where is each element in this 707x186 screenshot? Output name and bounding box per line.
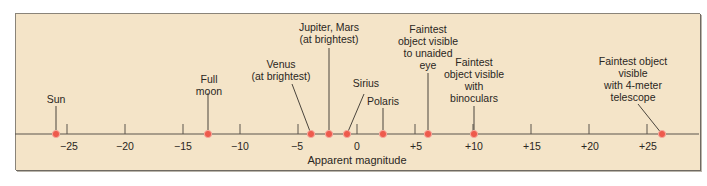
- tick-label: +10: [465, 140, 483, 152]
- label-full-moon: Full moon: [196, 73, 222, 97]
- tick-label: −25: [60, 140, 78, 152]
- label-line: Polaris: [367, 95, 399, 107]
- point-jupiter-mars: [325, 130, 332, 137]
- label-line: Venus: [252, 58, 311, 70]
- label-line: Jupiter, Mars: [299, 21, 359, 33]
- label-line: Sirius: [353, 77, 379, 89]
- label-line: (at brightest): [252, 70, 311, 82]
- point-polaris: [379, 130, 386, 137]
- tick-label: +15: [523, 140, 541, 152]
- tick-label: +25: [639, 140, 657, 152]
- label-telescope: Faintest object visible with 4-meter tel…: [599, 55, 667, 103]
- label-line: binoculars: [444, 92, 504, 104]
- label-line: Faintest: [444, 56, 504, 68]
- point-sirius: [343, 130, 350, 137]
- label-line: Full: [196, 73, 222, 85]
- point-sun: [52, 130, 59, 137]
- axis-title: Apparent magnitude: [307, 154, 406, 166]
- leader-lines: [56, 48, 662, 134]
- tick-label: 0: [354, 140, 360, 152]
- point-binoculars: [470, 130, 477, 137]
- tick-label: −10: [231, 140, 249, 152]
- point-telescope: [658, 130, 665, 137]
- label-line: object visible: [444, 68, 504, 80]
- tick-label: +5: [410, 140, 422, 152]
- axis-ticks: [67, 124, 647, 134]
- point-unaided-eye: [424, 130, 431, 137]
- label-binoculars: Faintest object visible with binoculars: [444, 56, 504, 104]
- label-sirius: Sirius: [353, 77, 379, 89]
- tick-label: −20: [116, 140, 134, 152]
- point-venus: [307, 130, 314, 137]
- tick-label: −5: [291, 140, 303, 152]
- label-line: Faintest object: [599, 55, 667, 67]
- tick-label: −15: [174, 140, 192, 152]
- label-line: (at brightest): [299, 33, 359, 45]
- label-line: with: [444, 80, 504, 92]
- tick-label: +20: [581, 140, 599, 152]
- label-line: Sun: [47, 93, 66, 105]
- label-line: object visible: [398, 35, 458, 47]
- label-line: moon: [196, 85, 222, 97]
- label-venus: Venus (at brightest): [252, 58, 311, 82]
- label-polaris: Polaris: [367, 95, 399, 107]
- label-line: with 4-meter: [599, 79, 667, 91]
- label-line: Faintest: [398, 23, 458, 35]
- label-jupiter-mars: Jupiter, Mars (at brightest): [299, 21, 359, 45]
- label-sun: Sun: [47, 93, 66, 105]
- label-line: visible: [599, 67, 667, 79]
- label-line: telescope: [599, 91, 667, 103]
- point-full-moon: [204, 130, 211, 137]
